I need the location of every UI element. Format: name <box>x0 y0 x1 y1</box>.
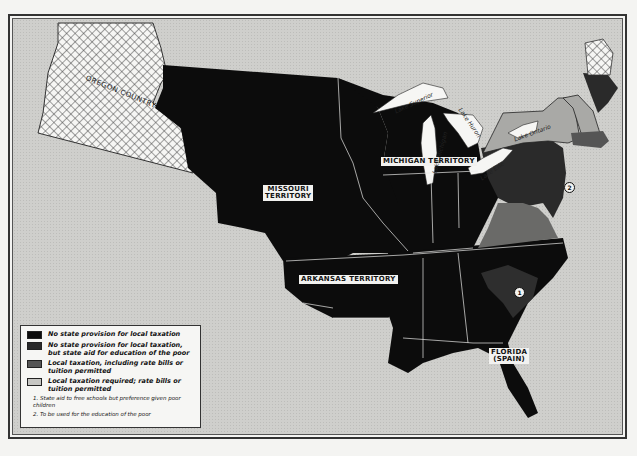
legend-item-no-provision: No state provision for local taxation <box>27 330 195 339</box>
legend-label: No state provision for local taxation <box>48 330 180 338</box>
legend-label: No state provision for local taxation, b… <box>48 341 195 357</box>
legend-note-2: 2. To be used for the education of the p… <box>33 411 195 418</box>
label-michigan-territory: MICHIGAN TERRITORY <box>381 157 477 166</box>
legend-swatch-light-gray <box>27 378 42 386</box>
legend-item-state-aid-poor: No state provision for local taxation, b… <box>27 341 195 357</box>
region-massachusetts <box>571 131 609 148</box>
legend-label: Local taxation, including rate bills or … <box>48 359 195 375</box>
footnote-marker-2: 2 <box>564 182 575 193</box>
region-maine-disputed <box>585 39 613 75</box>
label-florida-spain: FLORIDA (SPAIN) <box>489 348 529 364</box>
legend-swatch-black <box>27 331 42 339</box>
label-arkansas-territory: ARKANSAS TERRITORY <box>299 275 398 284</box>
region-southern-states <box>388 238 568 418</box>
map-legend: No state provision for local taxation No… <box>20 325 201 428</box>
legend-note-1: 1. State aid to free schools but prefere… <box>33 395 195 409</box>
legend-swatch-mid-gray <box>27 360 42 368</box>
footnote-marker-1: 1 <box>514 287 525 298</box>
legend-swatch-dark-gray <box>27 342 42 350</box>
label-missouri-territory: MISSOURI TERRITORY <box>263 185 313 201</box>
region-arkansas-territory <box>283 253 403 318</box>
legend-label: Local taxation required; rate bills or t… <box>48 377 195 393</box>
legend-item-local-tax-required: Local taxation required; rate bills or t… <box>27 377 195 393</box>
legend-item-local-tax-rate-bills: Local taxation, including rate bills or … <box>27 359 195 375</box>
